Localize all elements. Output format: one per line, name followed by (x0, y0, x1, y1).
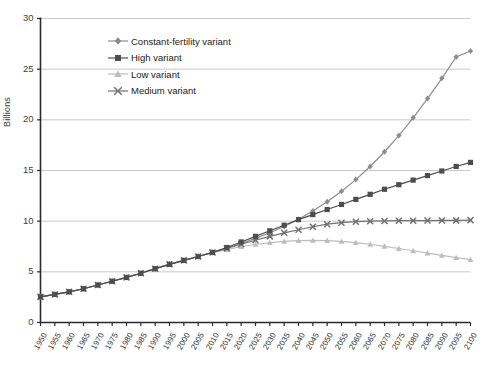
population-projection-chart: Billions 051015202530 195019551960196519… (0, 0, 485, 375)
y-tick-label: 10 (10, 215, 34, 226)
y-tick-label: 25 (10, 63, 34, 74)
legend-label: Constant-fertility variant (131, 36, 231, 47)
y-tick-label: 30 (10, 12, 34, 23)
legend-marker-diamond-icon (107, 34, 129, 48)
legend-marker-x-icon (107, 84, 129, 98)
chart-legend: Constant-fertility variant High variant … (107, 33, 277, 99)
y-tick-label: 5 (10, 265, 34, 276)
legend-item-constant-fertility-variant[interactable]: Constant-fertility variant (107, 33, 277, 50)
legend-label: Low variant (131, 69, 180, 80)
legend-marker-triangle-icon (107, 67, 129, 81)
legend-item-low-variant[interactable]: Low variant (107, 66, 277, 83)
legend-item-medium-variant[interactable]: Medium variant (107, 83, 277, 100)
legend-label: Medium variant (131, 85, 196, 96)
y-tick-label: 20 (10, 113, 34, 124)
legend-label: High variant (131, 52, 182, 63)
y-tick-label: 15 (10, 164, 34, 175)
legend-marker-square-icon (107, 51, 129, 65)
legend-item-high-variant[interactable]: High variant (107, 50, 277, 67)
y-axis-title: Billions (2, 67, 12, 157)
y-tick-label: 0 (10, 316, 34, 327)
